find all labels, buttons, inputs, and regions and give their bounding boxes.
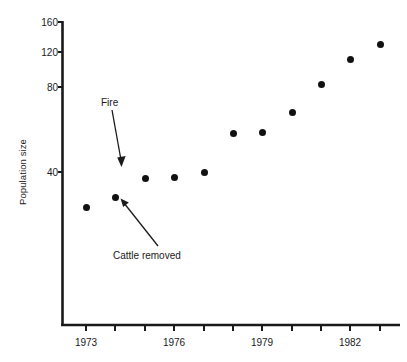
data-point (289, 109, 296, 116)
scatter-chart: Population size 160 120 80 40 1973 1976 … (0, 0, 407, 362)
annotation-label-cattle-removed: Cattle removed (113, 250, 181, 261)
data-point (142, 175, 149, 182)
data-point (230, 130, 237, 137)
y-axis-ticks (58, 22, 63, 172)
data-point (347, 56, 354, 63)
data-point (259, 129, 266, 136)
y-tick-label-160: 160 (24, 18, 58, 28)
x-tick-label-1976: 1976 (152, 338, 196, 348)
x-tick-label-1973: 1973 (64, 338, 108, 348)
data-point (112, 194, 119, 201)
y-tick-label-120: 120 (24, 48, 58, 58)
y-tick-label-40: 40 (24, 168, 58, 178)
data-point (377, 41, 384, 48)
data-point (171, 174, 178, 181)
data-point (83, 204, 90, 211)
y-tick-label-80: 80 (24, 83, 58, 93)
annotation-arrow-cattle-removed (121, 199, 159, 247)
annotation-label-fire: Fire (101, 97, 118, 108)
data-point (318, 81, 325, 88)
x-tick-label-1979: 1979 (240, 338, 284, 348)
data-point (201, 169, 208, 176)
x-axis-ticks (86, 325, 380, 331)
annotation-arrow-fire (112, 110, 126, 167)
chart-axes-layer (0, 0, 407, 362)
x-tick-label-1982: 1982 (328, 338, 372, 348)
